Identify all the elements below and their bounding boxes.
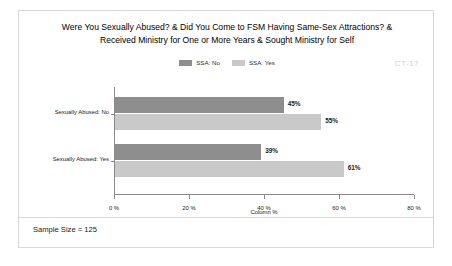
chart-title: Were You Sexually Abused? & Did You Come… [31, 21, 423, 46]
plot-area: Sexually Abused: No 45% 55% Sexually Abu… [114, 87, 414, 195]
chart-legend: SSA: No SSA: Yes [19, 59, 435, 66]
x-axis-title: Column % [114, 209, 414, 215]
legend-label-ssa-yes: SSA: Yes [249, 59, 275, 66]
footer-separator [19, 217, 433, 218]
x-axis-tick-0 [114, 195, 115, 199]
legend-swatch-ssa-no [179, 60, 192, 66]
sample-size-label: Sample Size = 125 [33, 225, 97, 234]
y-axis-label-1: Sexually Abused: Yes [53, 156, 115, 162]
bar-value-no-ssa-yes: 55% [325, 117, 338, 124]
legend-label-ssa-no: SSA: No [196, 59, 220, 66]
chart-title-line-2: Received Ministry for One or More Years … [31, 34, 423, 47]
x-axis-tick-3 [339, 195, 340, 199]
legend-item-ssa-yes[interactable]: SSA: Yes [232, 59, 275, 66]
bar-group-sexually-abused-yes: Sexually Abused: Yes 39% 61% [115, 144, 414, 178]
x-axis-tick-2 [264, 195, 265, 199]
bar-row-yes-ssa-no: 39% [115, 144, 414, 160]
bar-row-no-ssa-yes: 55% [115, 114, 414, 130]
x-axis-tick-1 [189, 195, 190, 199]
y-axis-label-0: Sexually Abused: No [55, 109, 115, 115]
x-axis-tick-4 [414, 195, 415, 199]
bar-row-yes-ssa-yes: 61% [115, 161, 414, 177]
legend-swatch-ssa-yes [232, 60, 245, 66]
bar-no-ssa-no[interactable] [115, 97, 284, 113]
bar-row-no-ssa-no: 45% [115, 97, 414, 113]
bar-value-yes-ssa-no: 39% [265, 147, 278, 154]
chart-title-line-1: Were You Sexually Abused? & Did You Come… [31, 21, 423, 34]
chart-card: Were You Sexually Abused? & Did You Come… [18, 10, 434, 248]
bar-value-yes-ssa-yes: 61% [348, 164, 361, 171]
bar-yes-ssa-no[interactable] [115, 144, 261, 160]
bar-yes-ssa-yes[interactable] [115, 161, 344, 177]
bar-group-sexually-abused-no: Sexually Abused: No 45% 55% [115, 97, 414, 131]
watermark-label: CT-17 [395, 59, 419, 68]
bar-value-no-ssa-no: 45% [288, 100, 301, 107]
bar-no-ssa-yes[interactable] [115, 114, 321, 130]
legend-item-ssa-no[interactable]: SSA: No [179, 59, 220, 66]
